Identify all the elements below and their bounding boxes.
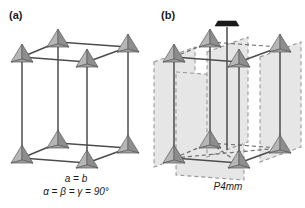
pyramid-icon xyxy=(117,135,139,153)
lattice-angles: α = β = γ = 90° xyxy=(0,185,152,198)
unit-cell-a xyxy=(11,29,139,168)
tetragonal-lattice-panel: (a) a = b α = β = γ = 90° xyxy=(0,0,152,208)
pyramid-icon xyxy=(76,49,98,67)
pyramid-icon xyxy=(47,130,69,148)
lattice-parameter-ab: a = b xyxy=(0,172,152,185)
pyramid-icon xyxy=(117,34,139,52)
space-group-symbol: P4mm xyxy=(152,180,304,193)
pyramid-icon xyxy=(199,29,221,47)
pyramid-icon xyxy=(76,150,98,168)
cell-bottom-face xyxy=(22,143,128,163)
pyramid-icon xyxy=(269,34,291,52)
cell-top-face xyxy=(22,42,128,62)
pyramid-icon xyxy=(47,29,69,47)
space-group-panel: (b) P4mm xyxy=(152,0,304,208)
panel-label-b: (b) xyxy=(161,9,175,21)
panel-label-a: (a) xyxy=(9,9,22,21)
crystal-structure-figure: (a) a = b α = β = γ = 90° xyxy=(0,0,305,208)
panel-b-diagram xyxy=(152,0,304,208)
